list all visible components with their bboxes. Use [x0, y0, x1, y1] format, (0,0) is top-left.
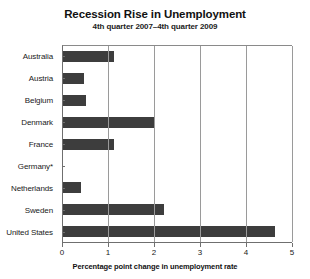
y-axis-label-netherlands: Netherlands — [0, 177, 58, 199]
y-axis-label-france: France — [0, 133, 58, 155]
y-tick-mark — [62, 144, 65, 145]
y-axis-label-australia: Australia — [0, 45, 58, 67]
gridline-4 — [246, 46, 247, 242]
bar-row — [63, 220, 292, 242]
x-tick-mark-2 — [154, 243, 155, 247]
gridline-2 — [154, 46, 155, 242]
chart-title-block: Recession Rise in Unemployment 4th quart… — [0, 8, 310, 32]
bar-row — [63, 133, 292, 155]
x-tick-mark-4 — [246, 243, 247, 247]
bar-row — [63, 68, 292, 90]
x-tick-mark-0 — [62, 243, 63, 247]
unemployment-bar-chart: Recession Rise in Unemployment 4th quart… — [0, 0, 310, 279]
x-tick-label-5: 5 — [282, 248, 302, 257]
y-axis-label-germany: Germany* — [0, 155, 58, 177]
x-tick-label-0: 0 — [52, 248, 72, 257]
gridline-1 — [108, 46, 109, 242]
bar-row — [63, 46, 292, 68]
x-tick-mark-3 — [200, 243, 201, 247]
bar-row — [63, 90, 292, 112]
x-tick-mark-1 — [108, 243, 109, 247]
gridline-5 — [292, 46, 293, 242]
bar-france — [63, 139, 114, 150]
y-tick-mark — [62, 188, 65, 189]
bar-row — [63, 155, 292, 177]
bar-row — [63, 111, 292, 133]
y-tick-mark — [62, 210, 65, 211]
y-tick-mark — [62, 166, 65, 167]
bar-rows — [63, 46, 292, 242]
y-axis-category-labels: AustraliaAustriaBelgiumDenmarkFranceGerm… — [0, 45, 58, 243]
y-tick-mark — [62, 78, 65, 79]
y-axis-label-austria: Austria — [0, 67, 58, 89]
y-axis-label-sweden: Sweden — [0, 199, 58, 221]
bar-unitedstates — [63, 226, 275, 237]
x-axis-title: Percentage point change in unemployment … — [0, 262, 310, 271]
bar-row — [63, 198, 292, 220]
y-tick-mark — [62, 232, 65, 233]
x-tick-label-3: 3 — [190, 248, 210, 257]
y-tick-mark — [62, 100, 65, 101]
gridline-3 — [200, 46, 201, 242]
plot-area — [62, 45, 292, 243]
bar-austria — [63, 73, 84, 84]
x-tick-label-4: 4 — [236, 248, 256, 257]
bar-netherlands — [63, 182, 81, 193]
y-axis-label-belgium: Belgium — [0, 89, 58, 111]
chart-subtitle: 4th quarter 2007–4th quarter 2009 — [0, 21, 310, 32]
bar-australia — [63, 51, 114, 62]
y-axis-label-unitedstates: United States — [0, 221, 58, 243]
y-tick-mark — [62, 122, 65, 123]
bar-row — [63, 177, 292, 199]
x-tick-label-2: 2 — [144, 248, 164, 257]
x-tick-mark-5 — [292, 243, 293, 247]
bar-denmark — [63, 117, 155, 128]
y-axis-label-denmark: Denmark — [0, 111, 58, 133]
bar-sweden — [63, 204, 164, 215]
chart-title: Recession Rise in Unemployment — [0, 8, 310, 21]
x-tick-label-1: 1 — [98, 248, 118, 257]
bar-belgium — [63, 95, 86, 106]
y-tick-mark — [62, 56, 65, 57]
